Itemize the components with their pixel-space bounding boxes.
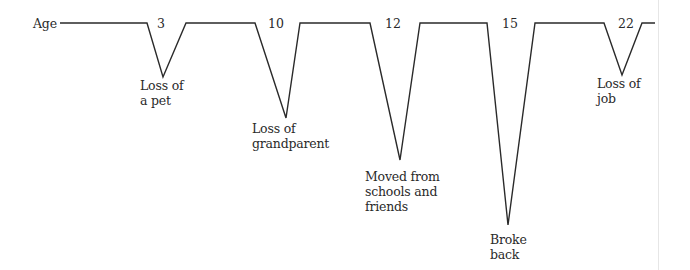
event-label-loss-of-job: Loss of job <box>597 76 640 106</box>
event-label-line: Loss of <box>597 76 640 91</box>
event-label-line: schools and <box>365 184 440 199</box>
age-marker-15: 15 <box>502 16 518 31</box>
event-label-line: a pet <box>140 93 183 108</box>
event-label-loss-of-grandparent: Loss of grandparent <box>252 121 329 151</box>
event-label-line: Loss of <box>140 78 183 93</box>
age-marker-3: 3 <box>157 16 165 31</box>
age-marker-10: 10 <box>268 16 284 31</box>
event-label-line: Broke <box>490 232 527 247</box>
life-events-timeline <box>0 0 690 270</box>
age-marker-12: 12 <box>385 16 401 31</box>
event-label-line: back <box>490 247 527 262</box>
page-edge-divider <box>658 0 659 270</box>
event-label-line: friends <box>365 199 440 214</box>
event-label-line: Loss of <box>252 121 329 136</box>
event-label-moved-schools: Moved from schools and friends <box>365 169 440 214</box>
event-label-line: job <box>597 91 640 106</box>
event-label-line: grandparent <box>252 136 329 151</box>
event-label-line: Moved from <box>365 169 440 184</box>
age-marker-22: 22 <box>618 16 634 31</box>
event-label-loss-of-pet: Loss of a pet <box>140 78 183 108</box>
event-label-broke-back: Broke back <box>490 232 527 262</box>
timeline-line <box>60 23 655 225</box>
axis-label-age: Age <box>33 16 57 31</box>
